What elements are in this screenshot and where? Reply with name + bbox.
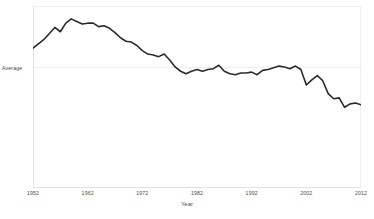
- x-tick-label: 1962: [82, 190, 94, 196]
- x-tick-label: 1952: [27, 190, 39, 196]
- data-series-line: [33, 19, 361, 107]
- x-tick-label: 2002: [300, 190, 312, 196]
- x-tick-label: 1992: [246, 190, 258, 196]
- x-axis-title: Year: [0, 201, 374, 207]
- axis-rules: [33, 6, 361, 188]
- x-tick-label: 1982: [191, 190, 203, 196]
- line-chart-plot: [33, 6, 361, 188]
- x-tick-label: 2012: [355, 190, 367, 196]
- x-tick-label: 1972: [136, 190, 148, 196]
- y-axis-label: Average: [2, 64, 22, 72]
- chart-container: Average 1952196219721982199220022012 Yea…: [0, 0, 374, 219]
